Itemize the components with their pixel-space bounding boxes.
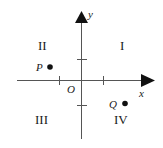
point-p-label: P (35, 61, 43, 73)
quadrant-label-iv: IV (114, 112, 128, 127)
point-q-dot (122, 101, 128, 107)
y-axis-label: y (87, 8, 93, 20)
point-q-label: Q (109, 98, 117, 110)
quadrant-label-iii: III (35, 112, 48, 127)
quadrant-label-i: I (120, 38, 124, 53)
origin-label: O (67, 83, 75, 95)
point-p-dot (47, 64, 53, 70)
coordinate-plane: y x O II I III IV P Q (0, 0, 163, 148)
y-axis-arrow-icon (75, 11, 88, 23)
quadrant-label-ii: II (38, 38, 47, 53)
x-axis-label: x (138, 87, 144, 99)
x-axis-arrow-icon (141, 74, 155, 87)
